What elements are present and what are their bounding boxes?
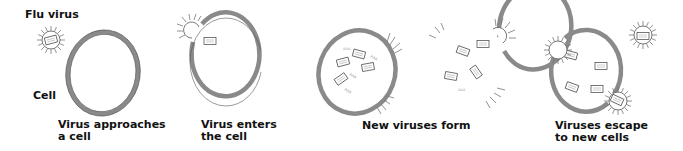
free-flu-virus — [37, 26, 65, 54]
stage-4-label-line1: Viruses escape — [555, 120, 648, 131]
host-cell-3: AAA AAA AAA AAA — [307, 20, 407, 125]
flu-virus-lifecycle-diagram: AAA AAA AAA AAA — [0, 0, 683, 151]
svg-text:AAA: AAA — [344, 87, 353, 94]
host-cell-1 — [60, 25, 146, 121]
escaped-virus — [629, 21, 657, 49]
budding-virus-top — [493, 18, 516, 43]
stage-3-label: New viruses form — [362, 120, 470, 131]
stage-2-label-line2: the cell — [201, 131, 247, 142]
cell-label: Cell — [33, 90, 56, 101]
budding-virus-right — [604, 87, 632, 115]
budding-virus-left — [544, 36, 572, 64]
stage-2-label-line1: Virus enters — [201, 119, 277, 130]
svg-text:AAA: AAA — [349, 72, 358, 79]
host-cell-2 — [190, 12, 262, 106]
stage-1-label-line1: Virus approaches — [58, 119, 166, 130]
svg-text:AAA: AAA — [458, 88, 466, 92]
stage-4-label-line2: to new cells — [555, 132, 629, 143]
stage-1-label-line2: a cell — [58, 131, 91, 142]
svg-text:AAA: AAA — [343, 47, 351, 51]
svg-text:AAA: AAA — [370, 54, 379, 61]
flu-virus-label: Flu virus — [25, 9, 79, 20]
